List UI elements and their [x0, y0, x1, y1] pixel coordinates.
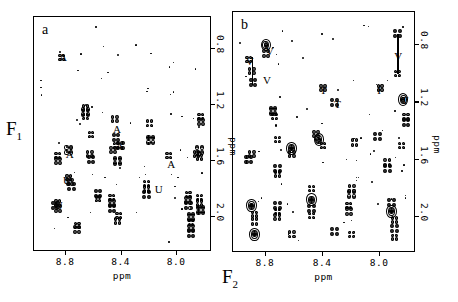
- noise-speckle: [58, 142, 60, 144]
- cross-peak: [78, 223, 80, 225]
- noise-speckle: [239, 42, 241, 44]
- noise-speckle: [332, 38, 334, 40]
- noise-speckle: [145, 174, 147, 176]
- cross-peak: [313, 131, 315, 133]
- f1-axis-label: F1: [6, 118, 22, 142]
- cross-peak: [353, 191, 355, 193]
- noise-speckle: [54, 228, 55, 229]
- cross-peak: [396, 230, 398, 232]
- noise-speckle: [147, 88, 149, 90]
- noise-speckle: [67, 217, 69, 219]
- panel-a-plot-area: AAAAAUUU: [34, 17, 210, 250]
- noise-speckle: [402, 26, 403, 27]
- cross-peak: [353, 185, 355, 187]
- cross-peak: [197, 206, 199, 208]
- noise-speckle: [405, 195, 407, 197]
- cross-peak: [399, 147, 401, 149]
- cross-peak: [403, 147, 405, 149]
- peak-annotation-a: A: [113, 124, 121, 135]
- noise-speckle: [117, 54, 119, 56]
- peak-annotation-a: A: [116, 141, 124, 152]
- spectrum-panel-a: a AAAAAUUU: [33, 16, 211, 251]
- cross-peak: [198, 119, 200, 121]
- cross-peak: [119, 218, 121, 220]
- x-axis-title: ppm: [314, 271, 333, 282]
- cross-peak: [112, 116, 114, 118]
- noise-speckle: [369, 114, 370, 115]
- cross-peak: [272, 118, 274, 120]
- noise-speckle: [280, 149, 282, 151]
- noise-speckle: [371, 181, 373, 183]
- noise-speckle: [79, 123, 81, 125]
- cross-peak: [197, 195, 199, 197]
- noise-speckle: [261, 197, 262, 198]
- cross-peak: [313, 213, 315, 215]
- y-tick-label: 1.2: [419, 88, 430, 107]
- cross-peak: [350, 203, 352, 205]
- cross-peak: [313, 186, 315, 188]
- noise-speckle: [74, 172, 75, 173]
- cross-peak: [309, 186, 311, 188]
- cross-peak: [395, 75, 397, 77]
- noise-speckle: [119, 167, 121, 169]
- peak-annotation-t: T: [402, 95, 409, 106]
- cross-peak: [346, 208, 348, 210]
- noise-speckle: [116, 184, 117, 185]
- noise-speckle: [181, 116, 182, 117]
- cross-peak: [336, 233, 338, 235]
- cross-peak: [99, 200, 101, 202]
- cross-peak: [272, 114, 274, 116]
- cross-peak: [151, 120, 153, 122]
- cross-peak: [88, 156, 90, 158]
- cross-peak: [192, 220, 194, 222]
- noise-speckle: [102, 112, 103, 113]
- cross-peak: [186, 192, 188, 194]
- cross-peak: [403, 143, 405, 145]
- cross-peak: [275, 137, 277, 139]
- cross-peak: [75, 223, 77, 225]
- noise-speckle: [275, 124, 277, 126]
- cross-peak: [346, 213, 348, 215]
- cross-peak: [147, 136, 149, 138]
- cross-peak: [92, 136, 94, 138]
- peak-annotation-u: U: [155, 184, 163, 195]
- cross-peak: [263, 55, 265, 57]
- panel-b-plot-area: VVVVTTTI: [233, 12, 414, 251]
- peak-annotation-t: T: [320, 85, 327, 96]
- x-tick: [176, 251, 177, 255]
- noise-speckle: [195, 68, 197, 70]
- cross-peak: [116, 116, 118, 118]
- cross-peak: [194, 151, 196, 153]
- noise-speckle: [150, 53, 152, 55]
- cross-peak: [250, 204, 252, 207]
- x-tick: [265, 252, 266, 256]
- noise-speckle: [258, 151, 260, 153]
- noise-speckle: [377, 203, 379, 205]
- noise-speckle: [76, 119, 78, 121]
- cross-peak: [356, 144, 358, 146]
- cross-peak: [198, 123, 200, 125]
- x-tick-label: 8.0: [167, 256, 186, 267]
- cross-peak: [202, 114, 204, 116]
- cross-peak: [324, 143, 326, 145]
- noise-speckle: [306, 108, 308, 110]
- peak-annotation-i: I: [377, 85, 381, 96]
- noise-speckle: [170, 113, 171, 114]
- cross-peak: [392, 221, 394, 223]
- cross-peak: [109, 205, 111, 207]
- peak-connector-line: [397, 34, 398, 74]
- noise-speckle: [302, 57, 304, 59]
- cross-peak: [188, 213, 190, 215]
- cross-peak: [350, 213, 352, 215]
- noise-speckle: [80, 53, 82, 55]
- cross-peak: [249, 72, 251, 74]
- x-tick-label: 8.4: [313, 257, 332, 268]
- noise-speckle: [104, 177, 105, 178]
- cross-peak: [399, 143, 401, 145]
- noise-speckle: [363, 25, 365, 27]
- cross-peak: [392, 217, 394, 219]
- x-tick: [121, 251, 122, 255]
- cross-peak: [349, 185, 351, 187]
- cross-peak: [95, 190, 97, 192]
- cross-peak: [119, 162, 121, 164]
